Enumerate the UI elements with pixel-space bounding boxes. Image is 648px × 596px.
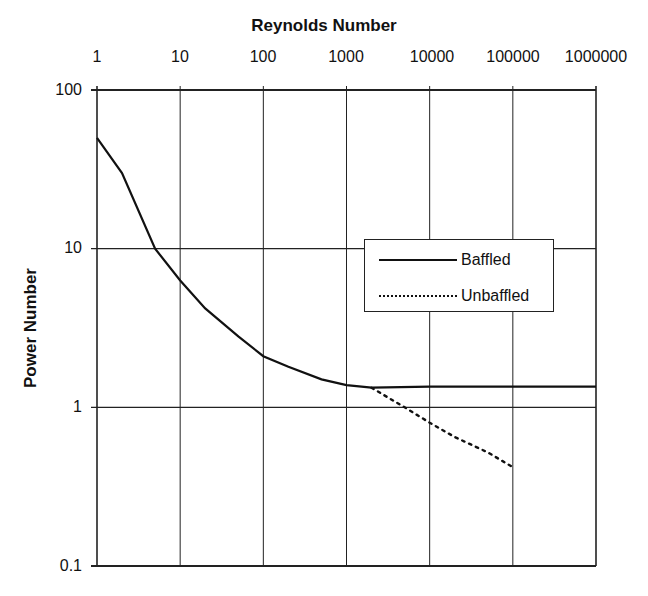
x-axis-title: Reynolds Number: [0, 16, 648, 36]
chart-legend: Baffled Unbaffled: [364, 239, 554, 312]
x-tick-label: 1: [93, 48, 102, 66]
x-tick-label: 10: [171, 48, 189, 66]
x-tick-label: 10000: [410, 48, 455, 66]
legend-label: Unbaffled: [461, 287, 529, 305]
y-axis-title: Power Number: [21, 253, 41, 403]
legend-item-baffled: Baffled: [379, 250, 511, 270]
y-tick-label: 1: [73, 398, 82, 416]
dotted-line-swatch-icon: [379, 295, 457, 297]
y-tick-label: 10: [64, 239, 82, 257]
series-line-unbaffled: [372, 388, 513, 467]
x-tick-label: 100000: [486, 48, 539, 66]
x-tick-label: 100: [250, 48, 277, 66]
legend-item-unbaffled: Unbaffled: [379, 286, 529, 306]
solid-line-swatch-icon: [379, 259, 457, 261]
x-tick-label: 1000000: [565, 48, 627, 66]
y-tick-label: 0.1: [60, 557, 82, 575]
x-tick-label: 1000: [328, 48, 364, 66]
legend-label: Baffled: [461, 251, 511, 269]
y-tick-label: 100: [55, 81, 82, 99]
